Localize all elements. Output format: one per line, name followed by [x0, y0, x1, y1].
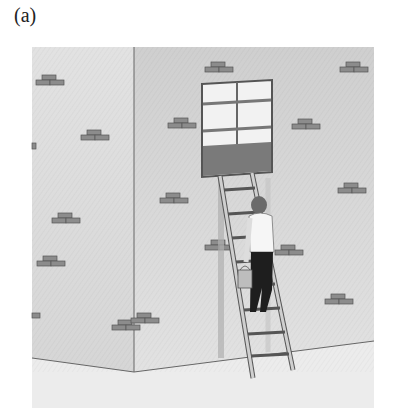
bucket-icon — [238, 270, 252, 288]
window — [202, 80, 272, 177]
ladder-wall-illustration — [0, 0, 398, 420]
